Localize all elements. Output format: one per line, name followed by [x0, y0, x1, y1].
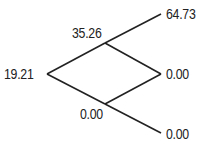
node-root-value: 19.21 [4, 66, 34, 82]
node-down-value: 0.00 [80, 106, 103, 122]
node-downdown-value: 0.00 [166, 126, 189, 142]
node-up-value: 35.26 [72, 25, 102, 41]
edge-root-up [47, 43, 105, 74]
edge-root-down [47, 74, 105, 104]
edge-down-updown [105, 74, 161, 104]
edge-down-downdown [105, 104, 161, 133]
node-upup-value: 64.73 [166, 6, 196, 22]
edge-up-updown [105, 43, 161, 74]
node-updown-value: 0.00 [166, 66, 189, 82]
edge-up-upup [105, 14, 161, 43]
